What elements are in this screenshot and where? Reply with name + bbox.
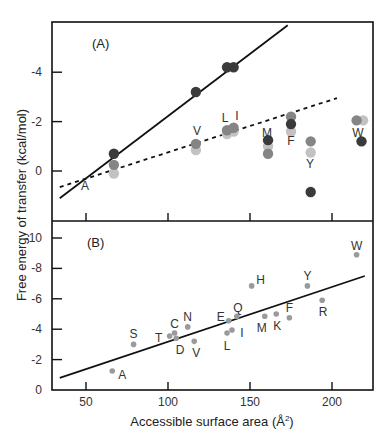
point-label-b: R <box>319 305 328 319</box>
point-label-a: W <box>352 126 364 140</box>
y-tick-label-a: -4 <box>31 65 42 79</box>
point-label-a: F <box>287 134 294 148</box>
data-point-b <box>262 313 268 319</box>
data-point-b <box>173 336 179 342</box>
point-label-b: H <box>256 273 265 287</box>
y-tick-label-b: -6 <box>31 292 42 306</box>
data-point-a-medium <box>109 160 119 170</box>
point-label-b: I <box>240 326 243 340</box>
panel-b-label: (B) <box>87 235 104 250</box>
data-point-a-medium <box>228 123 238 133</box>
data-point-a-medium <box>351 115 361 125</box>
point-label-a: L <box>222 111 229 125</box>
data-point-b <box>224 330 230 336</box>
x-tick-label: 50 <box>79 395 93 409</box>
point-label-a: V <box>193 124 201 138</box>
y-tick-label-a: -2 <box>31 115 42 129</box>
data-point-b <box>354 252 360 258</box>
outer-border <box>52 22 373 390</box>
chart-figure: 50100150200 -4-20AVLIMFYW -10-8-6-4-20AS… <box>0 0 389 442</box>
y-axis-title: Free energy of transfer (kcal/mol) <box>14 109 29 301</box>
point-label-b: T <box>155 331 163 345</box>
data-point-b <box>185 324 191 330</box>
solid-fit-line-a <box>60 25 288 198</box>
y-tick-label-a: 0 <box>35 164 42 178</box>
fit-line-b <box>60 276 365 378</box>
point-label-b: Q <box>233 301 242 315</box>
y-tick-label-b: 0 <box>35 383 42 397</box>
data-point-a-medium <box>305 136 315 146</box>
data-point-b <box>191 339 197 345</box>
panel-b: -10-8-6-4-20ASTCDNVLEIQHMKFYRW <box>25 231 365 397</box>
point-label-a: A <box>81 179 89 193</box>
y-tick-label-b: -4 <box>31 322 42 336</box>
x-tick-label: 200 <box>322 395 342 409</box>
point-label-a: Y <box>306 157 314 171</box>
point-label-b: V <box>192 346 200 360</box>
data-point-a-medium <box>191 139 201 149</box>
data-point-b <box>172 330 178 336</box>
point-label-b: K <box>273 319 281 333</box>
data-point-a-medium <box>263 149 273 159</box>
data-point-b <box>249 283 255 289</box>
data-point-a-dark <box>109 149 119 159</box>
point-label-b: Y <box>303 269 311 283</box>
point-label-b: E <box>217 310 225 324</box>
data-point-b <box>287 315 293 321</box>
y-tick-label-b: -8 <box>31 261 42 275</box>
data-point-a-dark <box>191 87 201 97</box>
point-label-b: S <box>130 327 138 341</box>
panel-a: -4-20AVLIMFYW <box>31 25 368 198</box>
point-label-b: N <box>183 310 192 324</box>
point-label-a: I <box>235 109 238 123</box>
point-label-a: M <box>262 126 272 140</box>
panel-a-label: (A) <box>92 36 109 51</box>
y-tick-label-b: -2 <box>31 353 42 367</box>
data-point-b <box>226 318 232 324</box>
data-point-b <box>109 368 115 374</box>
x-axis-title: Accessible surface area (Å2) <box>130 414 293 429</box>
data-point-a-dark <box>286 119 296 129</box>
data-point-b <box>305 283 311 289</box>
data-point-b <box>167 333 173 339</box>
point-label-b: A <box>118 368 126 382</box>
data-point-b <box>131 342 137 348</box>
point-label-b: W <box>351 239 363 253</box>
data-point-b <box>273 311 279 317</box>
point-label-b: M <box>257 321 267 335</box>
point-label-b: C <box>170 317 179 331</box>
plot-frame: 50100150200 <box>52 22 373 409</box>
point-label-b: D <box>176 343 185 357</box>
x-tick-label: 150 <box>240 395 260 409</box>
data-point-a-dark <box>228 62 238 72</box>
data-point-b <box>319 298 325 304</box>
point-label-b: F <box>286 301 293 315</box>
data-point-a-dark <box>305 187 315 197</box>
x-tick-label: 100 <box>158 395 178 409</box>
point-label-b: L <box>224 339 231 353</box>
data-point-b <box>229 327 235 333</box>
